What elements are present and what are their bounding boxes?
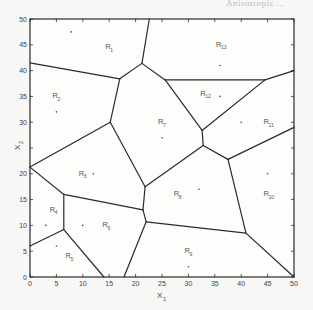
x-axis-label-sub: 1 <box>163 296 166 302</box>
seed-point <box>240 121 242 123</box>
voronoi-figure: Anisotropic ... 051015202530354045500510… <box>0 0 313 310</box>
seed-point <box>56 245 58 247</box>
svg-text:9: 9 <box>189 251 192 257</box>
svg-text:10: 10 <box>269 194 275 200</box>
seed-point <box>45 225 47 227</box>
seed-point <box>82 225 84 227</box>
figure-title-fragment: Anisotropic ... <box>226 0 285 8</box>
x-tick-label: 50 <box>290 280 298 287</box>
y-tick-label: 10 <box>19 222 27 229</box>
x-tick-label: 35 <box>211 280 219 287</box>
y-tick-label: 0 <box>23 274 27 281</box>
seed-point <box>70 31 72 33</box>
y-tick-label: 5 <box>23 248 27 255</box>
x-tick-label: 5 <box>54 280 58 287</box>
svg-text:4: 4 <box>55 209 58 215</box>
svg-text:2: 2 <box>57 96 60 102</box>
svg-text:5: 5 <box>71 256 74 262</box>
svg-text:12: 12 <box>205 93 211 99</box>
x-tick-label: 20 <box>132 280 140 287</box>
svg-text:13: 13 <box>221 44 227 50</box>
svg-text:1: 1 <box>110 47 113 53</box>
seed-point <box>93 173 95 175</box>
y-tick-label: 45 <box>19 41 27 48</box>
svg-text:8: 8 <box>179 194 182 200</box>
x-tick-label: 15 <box>105 280 113 287</box>
svg-text:7: 7 <box>163 122 166 128</box>
y-tick-label: 15 <box>19 196 27 203</box>
seed-point <box>267 173 269 175</box>
y-tick-label: 30 <box>19 119 27 126</box>
seed-point <box>219 65 221 67</box>
x-tick-label: 10 <box>79 280 87 287</box>
y-tick-label: 50 <box>19 16 27 23</box>
seed-point <box>161 137 163 139</box>
y-tick-label: 40 <box>19 67 27 74</box>
x-tick-label: 30 <box>185 280 193 287</box>
x-tick-label: 45 <box>264 280 272 287</box>
seed-point <box>188 266 190 268</box>
y-axis-label: X 2 <box>13 141 24 150</box>
x-tick-label: 40 <box>237 280 245 287</box>
svg-text:6: 6 <box>108 225 111 231</box>
svg-text:3: 3 <box>84 173 87 179</box>
x-tick-label: 25 <box>158 280 166 287</box>
svg-text:11: 11 <box>269 122 274 128</box>
seed-point <box>198 188 200 190</box>
y-tick-label: 20 <box>19 170 27 177</box>
y-axis-label-sub: 2 <box>18 141 24 144</box>
x-axis-label: X 1 <box>157 291 166 302</box>
x-tick-label: 0 <box>28 280 32 287</box>
seed-point <box>56 111 58 113</box>
y-tick-label: 35 <box>19 93 27 100</box>
seed-point <box>219 96 221 98</box>
plot-frame <box>30 19 294 277</box>
